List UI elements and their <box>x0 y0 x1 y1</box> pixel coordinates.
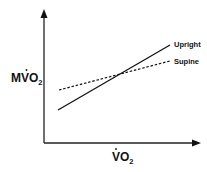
y-axis-label-dot <box>26 69 28 71</box>
x-axis-arrow-icon <box>192 140 201 147</box>
x-axis-label-sub: 2 <box>129 157 133 166</box>
y-axis-label-sub: 2 <box>38 78 42 87</box>
y-axis-label-main: MVO <box>11 71 38 85</box>
legend-upright: Upright <box>174 40 201 49</box>
series-upright-line <box>58 45 170 110</box>
legend-supine: Supine <box>174 57 199 66</box>
y-axis-arrow-icon <box>41 9 48 18</box>
x-axis-label: VO2 <box>112 150 134 166</box>
y-axis-label: MVO2 <box>11 71 43 87</box>
chart-canvas: Upright Supine MVO2 VO2 <box>0 0 207 172</box>
series-supine-line <box>59 61 170 90</box>
x-axis-label-dot <box>115 148 117 150</box>
x-axis-label-main: VO <box>112 150 129 164</box>
